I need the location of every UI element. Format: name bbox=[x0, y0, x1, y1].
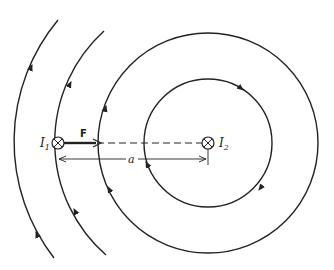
force-vector bbox=[64, 139, 101, 147]
field-line-arc-4 bbox=[14, 20, 58, 258]
direction-arrow-icon bbox=[105, 106, 106, 110]
wire-i2-icon bbox=[202, 137, 214, 149]
wire-i1-icon bbox=[52, 137, 64, 149]
diagram-canvas: F a I1 I2 bbox=[0, 0, 334, 270]
direction-arrow-icon bbox=[69, 82, 71, 86]
direction-arrow-icon bbox=[74, 209, 76, 213]
force-label: F bbox=[80, 128, 87, 139]
separation-label: a bbox=[128, 153, 135, 166]
current2-label: I2 bbox=[218, 136, 229, 152]
current1-label: I1 bbox=[39, 136, 50, 152]
direction-arrow-icon bbox=[259, 186, 262, 190]
